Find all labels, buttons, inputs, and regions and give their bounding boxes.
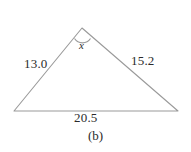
side-label-left: 13.0 [24, 56, 48, 72]
figure-caption: (b) [0, 128, 191, 144]
side-label-bottom: 20.5 [74, 110, 98, 126]
figure-container: 13.0 15.2 20.5 x (b) [0, 0, 191, 152]
side-label-right: 15.2 [131, 53, 155, 69]
angle-label-x: x [79, 39, 84, 51]
